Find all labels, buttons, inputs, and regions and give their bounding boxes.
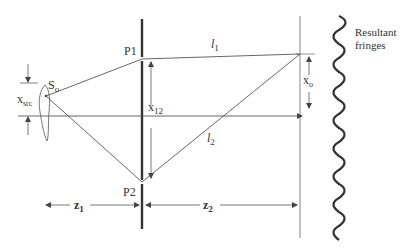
source-label: So [48, 78, 60, 94]
ray-source-to-p2 [46, 96, 142, 182]
x12-label: x12 [148, 100, 163, 116]
p2-label: P2 [123, 185, 136, 199]
ray-l1 [142, 54, 300, 59]
source-blob-icon [39, 85, 49, 141]
fringes-wave-icon [334, 16, 346, 240]
z1-label: z1 [74, 198, 84, 214]
xo-label: xo [303, 73, 313, 89]
xsrc-label: xsrc [17, 92, 33, 108]
ray-source-to-p1 [46, 59, 142, 96]
fringes-label-line2: fringes [355, 39, 386, 51]
l2-label: l2 [207, 131, 215, 147]
young-double-slit-diagram: So P1 P2 l1 l2 x12 xo xsrc z1 z2 Resulta… [0, 0, 408, 250]
z2-label: z2 [203, 198, 213, 214]
p1-label: P1 [124, 44, 137, 58]
fringes-label-line1: Resultant [355, 26, 397, 38]
ray-l2 [142, 54, 300, 182]
l1-label: l1 [211, 37, 219, 53]
diagram-svg: So P1 P2 l1 l2 x12 xo xsrc z1 z2 Resulta… [0, 0, 408, 250]
